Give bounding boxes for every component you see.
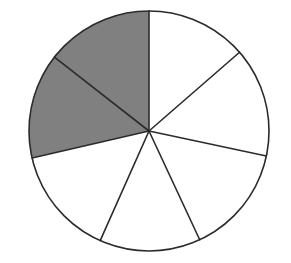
- figure-root: [0, 0, 291, 263]
- pie-sector-diagram: [0, 0, 291, 263]
